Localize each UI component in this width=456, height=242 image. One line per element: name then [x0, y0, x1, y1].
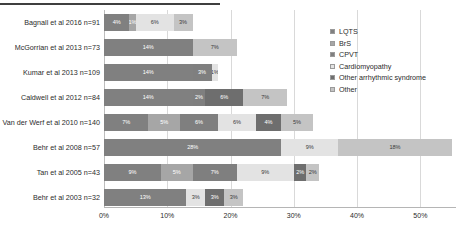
- bar-segment[interactable]: 14%: [104, 39, 193, 56]
- bar-segment[interactable]: 9%: [281, 139, 338, 156]
- bar-segment[interactable]: 1%: [212, 64, 218, 81]
- x-axis-tick: 30%: [287, 212, 301, 219]
- bar-segment-value: 4%: [113, 20, 121, 26]
- bar-segment[interactable]: 3%: [174, 14, 193, 31]
- legend-item[interactable]: Other arrhythmic syndrome: [330, 72, 448, 84]
- bar-segment-value: 2%: [309, 170, 317, 176]
- bar-segment[interactable]: 4%: [104, 14, 129, 31]
- bar-segment[interactable]: 6%: [218, 114, 256, 131]
- bar-segment-value: 5%: [173, 170, 181, 176]
- top-rule-decoration: [0, 3, 220, 5]
- legend-item[interactable]: BrS: [330, 38, 448, 50]
- bar-segment[interactable]: 9%: [237, 164, 294, 181]
- bar-segment-value: 7%: [211, 45, 219, 51]
- bar-segment-value: 7%: [261, 95, 269, 101]
- stacked-bar[interactable]: 4%1%6%3%: [104, 14, 193, 31]
- legend-item[interactable]: Cardiomyopathy: [330, 61, 448, 73]
- bar-segment[interactable]: 6%: [180, 114, 218, 131]
- bar-segment-value: 6%: [151, 20, 159, 26]
- x-axis-tick: 50%: [413, 212, 427, 219]
- legend-item[interactable]: Other: [330, 84, 448, 96]
- bar-segment[interactable]: 3%: [224, 189, 243, 206]
- bar-segment[interactable]: 3%: [193, 64, 212, 81]
- stacked-bar[interactable]: 13%3%3%3%: [104, 189, 243, 206]
- legend-item-label: Cardiomyopathy: [339, 63, 391, 70]
- bar-segment-value: 14%: [143, 45, 154, 51]
- bar-segment-value: 6%: [233, 120, 241, 126]
- legend-swatch-icon: [330, 29, 335, 34]
- bar-track: 9%5%7%9%2%2%: [104, 160, 456, 185]
- stacked-bar[interactable]: 14%7%: [104, 39, 237, 56]
- row-category-label: Behr et al 2008 n=57: [0, 144, 104, 152]
- row-category-label: Tan et al 2005 n=43: [0, 169, 104, 177]
- bar-segment-value: 3%: [211, 195, 219, 201]
- stacked-bar[interactable]: 7%5%6%6%4%5%: [104, 114, 313, 131]
- bar-segment[interactable]: 3%: [205, 189, 224, 206]
- bar-segment[interactable]: 7%: [193, 39, 237, 56]
- bar-segment[interactable]: 5%: [281, 114, 313, 131]
- bar-segment-value: 28%: [187, 145, 198, 151]
- legend-swatch-icon: [330, 41, 335, 46]
- chart-legend: LQTSBrSCPVTCardiomyopathyOther arrhythmi…: [330, 26, 448, 95]
- row-category-label: Caldwell et al 2012 n=84: [0, 94, 104, 102]
- bar-segment[interactable]: 6%: [136, 14, 174, 31]
- row-category-label: Behr et al 2003 n=32: [0, 194, 104, 202]
- bar-segment[interactable]: 2%: [294, 164, 307, 181]
- legend-item-label: Other: [339, 86, 357, 93]
- x-axis-tick: 20%: [224, 212, 238, 219]
- x-axis-tick: 0%: [99, 212, 109, 219]
- legend-item[interactable]: CPVT: [330, 49, 448, 61]
- bar-segment-value: 18%: [390, 145, 401, 151]
- bar-segment[interactable]: 4%: [256, 114, 281, 131]
- bar-segment-value: 2%: [195, 95, 203, 101]
- bar-segment[interactable]: 28%: [104, 139, 281, 156]
- bar-segment[interactable]: 14%: [104, 89, 193, 106]
- stacked-bar[interactable]: 14%3%1%: [104, 64, 218, 81]
- chart-row: Van der Werf et al 2010 n=1407%5%6%6%4%5…: [0, 110, 456, 135]
- row-category-label: McGorrian et al 2013 n=73: [0, 44, 104, 52]
- legend-item[interactable]: LQTS: [330, 26, 448, 38]
- legend-item-label: CPVT: [339, 51, 358, 58]
- bar-segment-value: 6%: [195, 120, 203, 126]
- bar-segment-value: 1%: [212, 70, 218, 76]
- legend-item-label: BrS: [339, 40, 351, 47]
- chart-row: Behr et al 2008 n=5728%9%18%: [0, 135, 456, 160]
- legend-swatch-icon: [330, 75, 335, 80]
- bar-segment[interactable]: 7%: [193, 164, 237, 181]
- legend-swatch-icon: [330, 52, 335, 57]
- stacked-bar[interactable]: 9%5%7%9%2%2%: [104, 164, 319, 181]
- bar-segment[interactable]: 18%: [338, 139, 452, 156]
- bar-segment[interactable]: 5%: [161, 164, 193, 181]
- bar-segment-value: 14%: [143, 95, 154, 101]
- bar-segment[interactable]: 14%: [104, 64, 193, 81]
- bar-segment[interactable]: 6%: [205, 89, 243, 106]
- x-axis-tick: 10%: [160, 212, 174, 219]
- bar-segment-value: 4%: [265, 120, 273, 126]
- bar-segment-value: 9%: [261, 170, 269, 176]
- x-axis-line: [104, 207, 456, 208]
- bar-segment[interactable]: 3%: [186, 189, 205, 206]
- bar-segment-value: 13%: [140, 195, 151, 201]
- bar-segment-value: 6%: [220, 95, 228, 101]
- row-category-label: Van der Werf et al 2010 n=140: [0, 119, 104, 127]
- legend-item-label: Other arrhythmic syndrome: [339, 74, 426, 81]
- bar-track: 7%5%6%6%4%5%: [104, 110, 456, 135]
- bar-segment-value: 14%: [143, 70, 154, 76]
- stacked-bar-chart: Bagnall et al 2016 n=914%1%6%3%McGorrian…: [0, 0, 456, 242]
- stacked-bar[interactable]: 28%9%18%: [104, 139, 452, 156]
- bar-segment[interactable]: 7%: [104, 114, 148, 131]
- x-axis-tick-labels: 0%10%20%30%40%50%: [104, 210, 456, 226]
- bar-segment[interactable]: 13%: [104, 189, 186, 206]
- bar-segment[interactable]: 2%: [306, 164, 319, 181]
- bar-segment-value: 3%: [230, 195, 238, 201]
- bar-segment[interactable]: 9%: [104, 164, 161, 181]
- bar-track: 28%9%18%: [104, 135, 456, 160]
- bar-segment[interactable]: 5%: [148, 114, 180, 131]
- stacked-bar[interactable]: 14%2%6%7%: [104, 89, 287, 106]
- bar-segment[interactable]: 7%: [243, 89, 287, 106]
- bar-segment-value: 5%: [293, 120, 301, 126]
- bar-segment-value: 3%: [192, 195, 200, 201]
- row-category-label: Kumar et al 2013 n=109: [0, 69, 104, 77]
- bar-segment[interactable]: 2%: [193, 89, 206, 106]
- bar-segment-value: 5%: [160, 120, 168, 126]
